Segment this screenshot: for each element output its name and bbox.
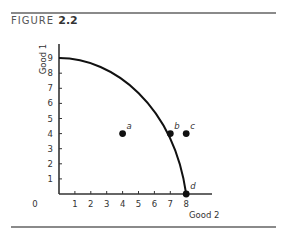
y-tick-label: 9 bbox=[48, 53, 53, 63]
y-tick-label: 6 bbox=[48, 98, 53, 108]
y-tick-label: 7 bbox=[48, 83, 53, 93]
x-tick-label: 2 bbox=[88, 199, 93, 209]
x-tick-label: 1 bbox=[72, 199, 77, 209]
x-axis-label: Good 2 bbox=[189, 210, 220, 220]
point-c bbox=[183, 130, 190, 137]
y-tick-label: 1 bbox=[48, 174, 53, 184]
x-tick-label: 7 bbox=[168, 199, 173, 209]
point-label-d: d bbox=[190, 181, 196, 191]
y-tick-label: 8 bbox=[48, 68, 53, 78]
y-tick-label: 3 bbox=[48, 144, 53, 154]
point-label-c: c bbox=[190, 121, 195, 131]
point-d bbox=[183, 191, 190, 198]
ppf-curve bbox=[59, 58, 186, 194]
x-tick-label: 5 bbox=[136, 199, 141, 209]
y-tick-label: 2 bbox=[48, 159, 53, 169]
point-a bbox=[119, 130, 126, 137]
y-tick-label: 5 bbox=[48, 114, 53, 124]
point-label-a: a bbox=[127, 121, 132, 131]
x-tick-label: 6 bbox=[152, 199, 157, 209]
origin-label: 0 bbox=[32, 199, 37, 209]
bottom-rule bbox=[11, 226, 276, 228]
point-label-b: b bbox=[174, 121, 179, 131]
point-b bbox=[167, 130, 174, 137]
y-tick-label: 4 bbox=[48, 129, 53, 139]
x-tick-label: 3 bbox=[104, 199, 109, 209]
x-tick-label: 8 bbox=[183, 199, 188, 209]
y-axis-label: Good 1 bbox=[38, 44, 48, 75]
ppf-chart: 123456781234567890Good 2Good 1abcd bbox=[0, 0, 288, 237]
x-tick-label: 4 bbox=[120, 199, 125, 209]
